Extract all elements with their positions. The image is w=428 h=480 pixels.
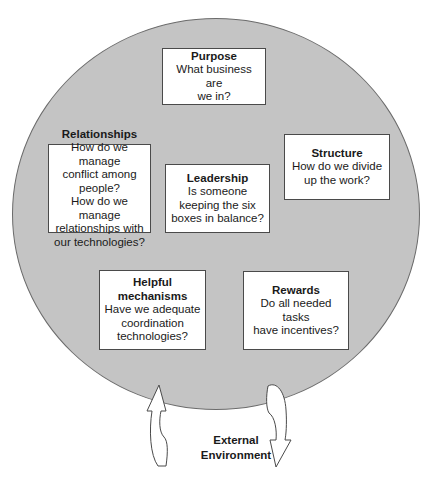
six-box-diagram: Purpose What business are we in? Relatio… [0, 0, 428, 480]
arrow-up-icon [147, 385, 167, 466]
arrows-layer [0, 0, 428, 480]
external-environment-label: External Environment [186, 433, 286, 462]
